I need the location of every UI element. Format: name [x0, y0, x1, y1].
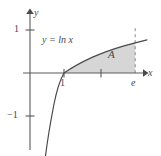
y-axis-arrowhead [26, 9, 34, 15]
curve-equation-label: y = ln x [42, 35, 73, 45]
y-tick-label-one: 1 [14, 24, 19, 34]
x-axis-label: x [148, 68, 152, 78]
y-tick-label-minus-one: −1 [7, 110, 18, 120]
figure-canvas [0, 0, 161, 156]
x-tick-label-e: e [131, 78, 135, 88]
region-label-A: A [108, 49, 115, 60]
ln-x-area-figure: y x 1 −1 1 e y = ln x A [0, 0, 161, 156]
y-axis-label: y [34, 8, 38, 18]
x-tick-label-one: 1 [60, 78, 65, 88]
shaded-region-A [64, 43, 135, 73]
